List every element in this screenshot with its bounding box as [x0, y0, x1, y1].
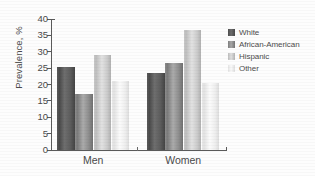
bar-men-hispanic — [94, 55, 112, 150]
x-tick-label-men: Men — [53, 154, 133, 166]
bar-women-hispanic — [184, 30, 202, 150]
legend-item-hispanic: Hispanic — [228, 52, 300, 62]
chart-legend: WhiteAfrican-AmericanHispanicOther — [228, 28, 300, 76]
legend-item-label: Other — [239, 64, 259, 73]
bar-women-other — [202, 83, 220, 150]
y-tick-label-10: 10 — [0, 112, 57, 122]
bar-men-other — [112, 81, 130, 150]
y-tick-label-0: 0 — [0, 145, 57, 155]
legend-swatch-icon — [228, 29, 235, 36]
legend-item-other: Other — [228, 64, 300, 74]
legend-item-white: White — [228, 28, 300, 38]
y-tick-label-35: 35 — [0, 30, 57, 40]
y-tick-label-25: 25 — [0, 63, 57, 73]
y-tick-label-5: 5 — [0, 129, 57, 139]
bar-men-white — [57, 67, 75, 151]
y-tick-label-30: 30 — [0, 47, 57, 57]
bar-men-african-american — [75, 94, 93, 150]
legend-swatch-icon — [228, 65, 235, 72]
bar-chart-figure: Prevalence, % 0510152025303540 Men Women… — [0, 0, 315, 176]
legend-swatch-icon — [228, 41, 235, 48]
legend-item-label: Hispanic — [239, 52, 269, 61]
x-tick-label-women: Women — [143, 154, 223, 166]
y-tick-label-15: 15 — [0, 96, 57, 106]
y-tick-label-40: 40 — [0, 14, 57, 24]
legend-item-label: White — [239, 28, 259, 37]
legend-swatch-icon — [228, 53, 235, 60]
bar-women-white — [147, 73, 165, 150]
x-axis-right-cap — [226, 147, 227, 151]
legend-item-african-american: African-American — [228, 40, 300, 50]
legend-item-label: African-American — [239, 40, 300, 49]
bar-women-african-american — [165, 63, 183, 150]
y-tick-label-20: 20 — [0, 80, 57, 90]
plot-area — [51, 19, 226, 150]
x-axis-line — [51, 150, 227, 151]
